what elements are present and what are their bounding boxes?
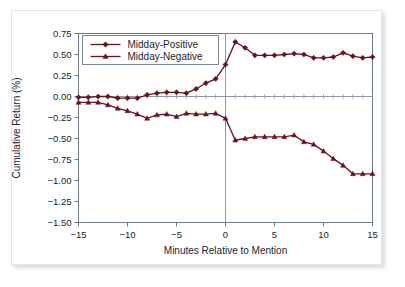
x-axis-tick-label: −5	[171, 229, 182, 240]
y-axis-title: Cumulative Return (%)	[11, 77, 22, 178]
y-axis-tick-label: −0.50	[47, 133, 71, 144]
legend-label-2: Midday-Negative	[128, 51, 203, 62]
y-axis-tick-label: −0.75	[47, 154, 71, 165]
y-axis-tick-label: −1.25	[47, 196, 71, 207]
y-axis-tick-label: 0.50	[53, 49, 72, 60]
x-axis-tick-label: 0	[223, 229, 228, 240]
x-axis-title: Minutes Relative to Mention	[164, 245, 287, 256]
chart-figure: 0.750.500.250.00−0.25−0.50−0.75−1.00−1.2…	[0, 0, 405, 287]
y-axis-tick-label: −1.50	[47, 217, 71, 228]
x-axis-tick-label: −15	[70, 229, 86, 240]
y-axis-tick-label: 0.00	[53, 91, 72, 102]
x-axis-tick-label: 10	[318, 229, 329, 240]
line-chart: 0.750.500.250.00−0.25−0.50−0.75−1.00−1.2…	[0, 0, 405, 287]
x-axis-tick-label: −10	[119, 229, 135, 240]
plot-container: 0.750.500.250.00−0.25−0.50−0.75−1.00−1.2…	[0, 0, 405, 287]
y-axis-tick-label: −1.00	[47, 175, 71, 186]
y-axis-tick-label: −0.25	[47, 112, 71, 123]
legend-label-1: Midday-Positive	[128, 39, 199, 50]
y-axis-tick-label: 0.25	[53, 70, 72, 81]
x-axis-tick-label: 5	[272, 229, 277, 240]
x-axis-tick-label: 15	[367, 229, 378, 240]
y-axis-tick-label: 0.75	[53, 28, 72, 39]
